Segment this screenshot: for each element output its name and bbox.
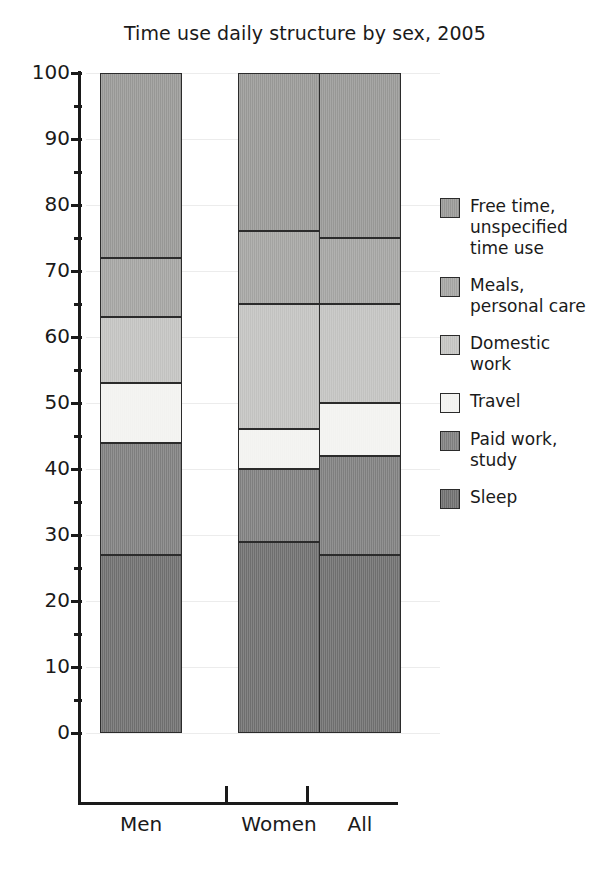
y-tick-label: 0	[8, 722, 70, 742]
y-tick: 40	[0, 458, 70, 478]
bar-segment[interactable]	[100, 73, 182, 258]
bar-segment[interactable]	[319, 403, 401, 456]
y-tick-label: 90	[8, 128, 70, 148]
y-tick-label: 30	[8, 524, 70, 544]
y-tick: 60	[0, 326, 70, 346]
y-tick-label: 60	[8, 326, 70, 346]
legend-swatch-icon	[440, 277, 460, 297]
bar-men[interactable]	[100, 0, 182, 871]
legend-item[interactable]: Domestic work	[440, 333, 610, 375]
legend-swatch-icon	[440, 393, 460, 413]
bar-segment[interactable]	[100, 555, 182, 733]
legend-label: Paid work, study	[470, 429, 557, 471]
legend-swatch-icon	[440, 431, 460, 451]
legend-label: Meals, personal care	[470, 275, 586, 317]
bar-segment[interactable]	[100, 317, 182, 383]
y-tick-label: 10	[8, 656, 70, 676]
bar-segment[interactable]	[319, 456, 401, 555]
bar-segment[interactable]	[319, 304, 401, 403]
legend-label: Sleep	[470, 487, 517, 508]
y-tick: 90	[0, 128, 70, 148]
y-tick: 20	[0, 590, 70, 610]
legend-swatch-icon	[440, 198, 460, 218]
x-axis-label-all: All	[290, 812, 430, 836]
legend-item[interactable]: Paid work, study	[440, 429, 610, 471]
chart-root: Time use daily structure by sex, 2005 01…	[0, 0, 610, 871]
bar-segment[interactable]	[319, 73, 401, 238]
y-tick: 10	[0, 656, 70, 676]
x-axis-label-men: Men	[71, 812, 211, 836]
legend-item[interactable]: Sleep	[440, 487, 610, 509]
bar-women[interactable]	[238, 0, 320, 871]
bar-segment[interactable]	[238, 73, 320, 231]
y-tick: 100	[0, 62, 70, 82]
bar-segment[interactable]	[100, 443, 182, 555]
legend-item[interactable]: Travel	[440, 391, 610, 413]
y-tick-label: 80	[8, 194, 70, 214]
bar-segment[interactable]	[100, 383, 182, 442]
y-tick-label: 20	[8, 590, 70, 610]
bar-segment[interactable]	[238, 469, 320, 542]
legend-label: Free time, unspecified time use	[470, 196, 568, 259]
y-tick-label: 70	[8, 260, 70, 280]
bar-segment[interactable]	[319, 238, 401, 304]
legend-label: Travel	[470, 391, 521, 412]
bar-segment[interactable]	[238, 542, 320, 733]
legend-item[interactable]: Meals, personal care	[440, 275, 610, 317]
y-tick: 80	[0, 194, 70, 214]
bar-segment[interactable]	[319, 555, 401, 733]
y-tick-label: 100	[8, 62, 70, 82]
y-tick: 50	[0, 392, 70, 412]
legend-item[interactable]: Free time, unspecified time use	[440, 196, 610, 259]
y-tick-label: 40	[8, 458, 70, 478]
plot-area: 0102030405060708090100 MenWomenAll	[0, 0, 440, 871]
legend-label: Domestic work	[470, 333, 550, 375]
y-tick: 70	[0, 260, 70, 280]
x-tick-mark	[225, 786, 228, 802]
legend-swatch-icon	[440, 335, 460, 355]
bar-segment[interactable]	[238, 429, 320, 469]
x-tick-mark	[306, 786, 309, 802]
bar-all[interactable]	[319, 0, 401, 871]
legend-swatch-icon	[440, 489, 460, 509]
y-tick: 0	[0, 722, 70, 742]
legend: Free time, unspecified time useMeals, pe…	[440, 196, 610, 525]
y-axis-line	[78, 71, 81, 805]
y-tick: 30	[0, 524, 70, 544]
bar-segment[interactable]	[238, 304, 320, 429]
y-tick-label: 50	[8, 392, 70, 412]
bar-segment[interactable]	[100, 258, 182, 317]
bar-segment[interactable]	[238, 231, 320, 304]
